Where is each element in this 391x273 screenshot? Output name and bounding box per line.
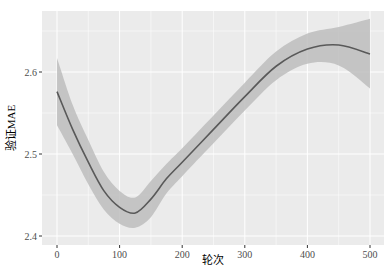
y-axis-title: 验证MAE — [4, 105, 17, 152]
chart: 0100200300400500 2.42.52.6 轮次 验证MAE — [0, 0, 391, 273]
x-axis-title: 轮次 — [202, 253, 224, 266]
x-tick-label: 200 — [175, 249, 190, 260]
x-tick-label: 400 — [300, 249, 315, 260]
y-tick-label: 2.5 — [25, 149, 38, 160]
x-tick-label: 0 — [55, 249, 60, 260]
x-tick-label: 100 — [112, 249, 127, 260]
x-tick-label: 300 — [237, 249, 252, 260]
x-tick-label: 500 — [363, 249, 378, 260]
y-tick-label: 2.4 — [25, 231, 38, 242]
y-axis-ticks: 2.42.52.6 — [25, 67, 43, 242]
y-tick-label: 2.6 — [25, 67, 38, 78]
